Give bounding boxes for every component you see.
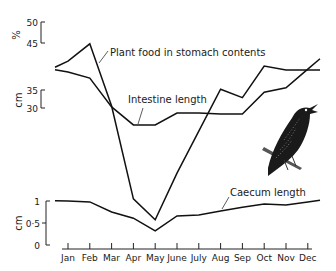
x-tick-label-nov: Nov [277, 253, 295, 263]
x-tick-label-apr: Apr [126, 253, 142, 263]
intestine-label: Intestine length [128, 94, 207, 105]
caecum-label: Caecum length [230, 187, 306, 198]
plant-food-leader [99, 51, 108, 63]
x-tick-label-sep: Sep [234, 253, 251, 263]
caecum-tick-1: 1 [34, 197, 40, 207]
x-axis-ticks: JanFebMarAprMayJuneJulyAugSepOctNovDec [60, 243, 316, 263]
intestine-tick-30: 30 [27, 104, 39, 114]
caecum-length-line [55, 200, 320, 231]
x-tick-label-jan: Jan [60, 253, 75, 263]
x-tick-label-oct: Oct [256, 253, 272, 263]
x-tick-label-june: June [166, 253, 187, 263]
caecum-axis: 1 0·5 0 cm [13, 197, 50, 251]
x-tick-label-feb: Feb [82, 253, 98, 263]
intestine-axis: 35 30 cm [13, 86, 45, 114]
caecum-axis-label: cm [13, 215, 24, 230]
starling-bird-icon [262, 104, 318, 176]
plant-food-label: Plant food in stomach contents [110, 47, 266, 58]
percent-tick-45: 45 [27, 39, 38, 49]
seasonal-gut-chart: 50 45 % 35 30 cm 1 0·5 0 cm JanFebMarApr… [0, 0, 336, 271]
x-tick-label-dec: Dec [299, 253, 316, 263]
caecum-leader [222, 197, 229, 209]
x-tick-label-aug: Aug [212, 253, 230, 263]
percent-axis: 50 45 % [11, 18, 45, 49]
percent-axis-label: % [11, 30, 22, 40]
percent-tick-50: 50 [27, 18, 39, 28]
intestine-leader [138, 108, 143, 124]
caecum-tick-0: 0 [34, 241, 40, 251]
intestine-tick-35: 35 [27, 86, 38, 96]
caecum-tick-0.5: 0·5 [26, 219, 40, 229]
intestine-axis-label: cm [13, 92, 24, 107]
x-tick-label-mar: Mar [103, 253, 120, 263]
x-tick-label-may: May [146, 253, 165, 263]
x-tick-label-july: July [190, 253, 208, 263]
